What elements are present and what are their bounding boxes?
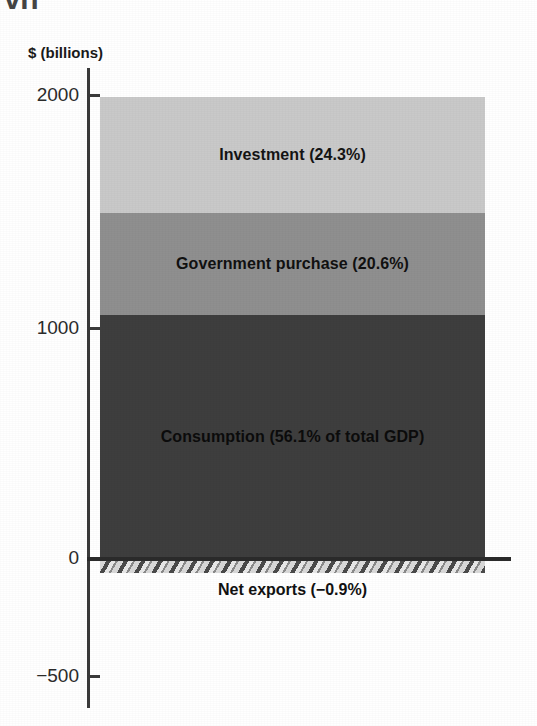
bar-segment-label-government-purchase: Government purchase (20.6%) [176, 255, 409, 273]
y-tick-label-2000: 2000 [0, 84, 79, 106]
y-tick-mark-2000 [87, 94, 100, 97]
y-tick-mark-1000 [87, 327, 100, 330]
x-axis-zero-line [87, 557, 511, 561]
net-exports-caption: Net exports (−0.9%) [100, 581, 485, 599]
y-axis-line [87, 68, 90, 708]
y-tick-label-1000: 1000 [0, 317, 79, 339]
bar-segment-net-exports [100, 560, 485, 573]
y-tick-label-minus-500: −500 [0, 665, 79, 687]
y-tick-mark-minus-500 [87, 675, 100, 678]
bar-segment-government-purchase: Government purchase (20.6%) [100, 213, 485, 315]
y-axis-title: $ (billions) [28, 44, 103, 61]
y-tick-label-0: 0 [0, 547, 79, 569]
cropped-title-fragment: vn [4, 0, 38, 10]
bar-segment-label-investment: Investment (24.3%) [219, 146, 366, 164]
bar-segment-investment: Investment (24.3%) [100, 97, 485, 213]
bar-segment-label-consumption: Consumption (56.1% of total GDP) [161, 428, 425, 446]
gdp-components-chart: vn $ (billions) 2000 1000 0 −500 Investm… [0, 0, 537, 726]
bar-segment-consumption: Consumption (56.1% of total GDP) [100, 315, 485, 559]
